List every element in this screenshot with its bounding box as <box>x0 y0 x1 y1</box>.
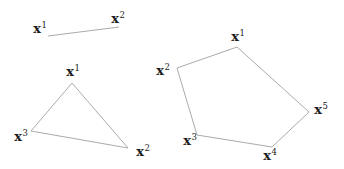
vertex-label-base: x <box>111 11 119 26</box>
vertex-label-base: x <box>33 21 41 36</box>
vertex-label-superscript: 4 <box>271 147 276 157</box>
triangle-vertex-label-2: x2 <box>136 144 150 158</box>
vertex-label-superscript: 2 <box>119 10 124 20</box>
vertex-label-superscript: 5 <box>322 101 327 111</box>
vertex-label-superscript: 1 <box>41 20 46 30</box>
shape-edges-layer <box>0 0 344 169</box>
pentagon-edge <box>272 112 309 147</box>
line-segment-vertex-label-2: x2 <box>111 11 125 25</box>
vertex-label-superscript: 2 <box>144 143 149 153</box>
vertex-label-superscript: 1 <box>239 28 244 38</box>
triangle-edge <box>72 83 128 148</box>
pentagon-vertex-label-1: x1 <box>231 29 245 43</box>
vertex-label-superscript: 2 <box>164 62 169 72</box>
pentagon-edge <box>177 47 237 68</box>
pentagon-vertex-label-4: x4 <box>263 148 277 162</box>
line-segment-vertex-label-1: x1 <box>33 21 47 35</box>
vertex-label-base: x <box>66 64 74 79</box>
triangle-vertex-label-3: x3 <box>14 129 28 143</box>
vertex-label-superscript: 1 <box>74 63 79 73</box>
vertex-label-base: x <box>314 102 322 117</box>
vertex-label-superscript: 3 <box>191 132 196 142</box>
pentagon-vertex-label-3: x3 <box>183 133 197 147</box>
pentagon-vertex-label-2: x2 <box>156 63 170 77</box>
triangle-edge <box>31 131 128 148</box>
pentagon-edge <box>237 47 309 112</box>
vertex-label-base: x <box>263 148 271 163</box>
vertex-label-base: x <box>14 129 22 144</box>
vertex-label-base: x <box>183 133 191 148</box>
triangle-edge <box>31 83 72 131</box>
pentagon-edge <box>197 135 272 147</box>
vertex-label-superscript: 3 <box>22 128 27 138</box>
figure-canvas: x1x2x1x2x3x1x2x3x4x5 <box>0 0 344 169</box>
vertex-label-base: x <box>136 144 144 159</box>
vertex-label-base: x <box>231 29 239 44</box>
line-segment-edge <box>48 27 119 36</box>
pentagon-vertex-label-5: x5 <box>314 102 328 116</box>
pentagon-edge <box>177 68 197 135</box>
vertex-label-base: x <box>156 63 164 78</box>
triangle-vertex-label-1: x1 <box>66 64 80 78</box>
